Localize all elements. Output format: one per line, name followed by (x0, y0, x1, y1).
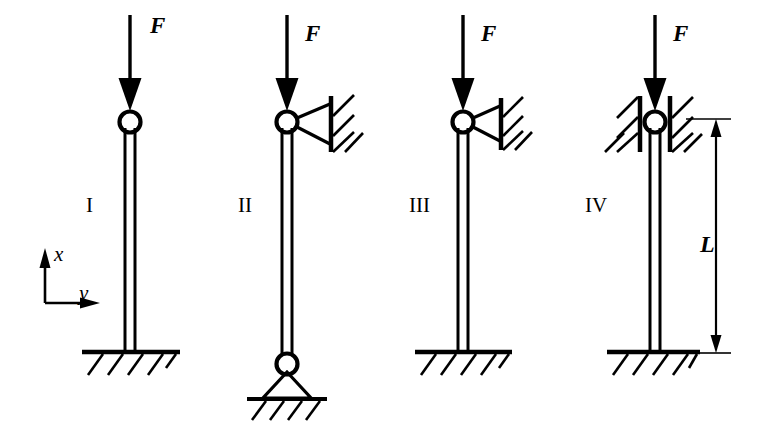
column-IV (605, 15, 702, 375)
column-III-load-arrow (452, 15, 475, 111)
column-II-shaft (282, 128, 292, 355)
dimension-arrow-down (711, 335, 722, 353)
column-I-force-label: F (150, 14, 165, 37)
column-III-fixed-base (415, 352, 512, 375)
axis-x-label: x (54, 244, 63, 265)
column-I-load-arrow (119, 15, 142, 111)
column-III-wall-support (501, 97, 532, 150)
column-I-label: I (86, 195, 93, 216)
column-II-label: II (238, 195, 252, 216)
axis-x-arrowhead (40, 248, 51, 268)
column-I-fixed-base (82, 352, 180, 375)
dimension-arrow-up (711, 119, 722, 137)
column-IV-top-pin (645, 112, 666, 133)
column-II-pinned-base (247, 354, 327, 421)
column-I-top-pin (120, 112, 141, 133)
column-II-force-label: F (305, 22, 320, 45)
column-IV-right-guide (670, 96, 702, 152)
column-II-horizontal-link (297, 104, 330, 144)
length-dimension-label: L (700, 232, 715, 256)
column-II-wall-support (331, 95, 363, 152)
column-IV-shaft (650, 128, 660, 352)
axis-y-label: y (79, 283, 88, 304)
column-II-top-pin (277, 112, 298, 133)
column-IV-fixed-base (607, 352, 700, 375)
column-III (415, 15, 532, 375)
column-II (247, 15, 363, 420)
column-I (82, 15, 180, 375)
column-III-shaft (458, 128, 468, 352)
column-IV-left-guide (605, 96, 640, 152)
column-III-horizontal-link (473, 106, 500, 141)
column-I-shaft (125, 128, 135, 352)
column-III-top-pin (453, 112, 474, 133)
column-III-label: III (409, 195, 430, 216)
column-IV-label: IV (585, 195, 607, 216)
column-buckling-figure: F F F F I II III IV x y L (0, 0, 766, 436)
figure-canvas (0, 0, 766, 436)
column-IV-force-label: F (673, 22, 688, 45)
column-IV-load-arrow (644, 15, 667, 111)
column-II-load-arrow (276, 15, 299, 111)
column-III-force-label: F (481, 22, 496, 45)
coordinate-axes (40, 248, 101, 309)
